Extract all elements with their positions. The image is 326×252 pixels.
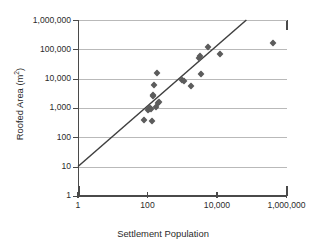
gridline xyxy=(78,137,287,138)
y-axis-tick-label: 100,000 xyxy=(40,45,71,54)
gridline xyxy=(78,49,287,50)
gridline xyxy=(78,167,287,168)
y-axis-tick xyxy=(73,108,79,109)
gridline xyxy=(78,108,287,109)
y-axis-tick xyxy=(73,20,79,21)
y-axis-title-base: Roofed Area (m xyxy=(14,75,25,141)
y-axis-tick-label: 10,000 xyxy=(45,74,71,83)
x-axis-title: Settlement Population xyxy=(0,228,326,239)
y-axis-tick xyxy=(73,49,79,50)
x-axis-tick-label: 1 xyxy=(76,200,81,210)
y-axis-tick-label: 1 xyxy=(66,191,71,200)
x-axis-line xyxy=(78,195,287,197)
x-axis-tick-label: 1,000,000 xyxy=(267,200,305,210)
plot-right-edge xyxy=(286,20,287,30)
x-axis-tick-label: 10,000 xyxy=(204,200,230,210)
gridline xyxy=(78,20,287,21)
y-axis-tick-label: 1,000,000 xyxy=(33,16,71,25)
y-axis-title-exponent: 2 xyxy=(13,71,20,75)
x-axis-tick-label: 100 xyxy=(140,200,154,210)
y-axis-tick-label: 10 xyxy=(61,162,71,171)
x-axis-tick xyxy=(216,192,217,198)
chart-figure: 1101001,00010,000100,0001,000,000 110010… xyxy=(0,0,326,252)
x-axis-tick xyxy=(286,192,287,198)
y-axis-tick xyxy=(73,137,79,138)
y-axis-tick-label: 100 xyxy=(57,133,71,142)
y-axis-tick xyxy=(73,79,79,80)
x-axis-tick xyxy=(77,192,78,198)
y-axis-tick-label: 1,000 xyxy=(49,103,71,112)
y-axis-title-tail: ) xyxy=(14,68,25,71)
x-axis-tick xyxy=(147,192,148,198)
y-axis-tick xyxy=(73,167,79,168)
y-axis-title: Roofed Area (m2) xyxy=(13,39,25,169)
